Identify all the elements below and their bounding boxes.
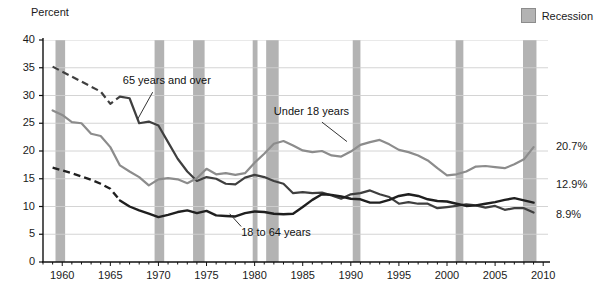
x-tick-label: 2010: [523, 269, 563, 281]
y-tick-label: 0: [13, 255, 35, 267]
x-tick-label: 1960: [42, 269, 82, 281]
x-tick-label: 1975: [187, 269, 227, 281]
y-tick-label: 15: [13, 172, 35, 184]
end-value-adults: 8.9%: [556, 208, 581, 220]
x-tick-label: 1990: [331, 269, 371, 281]
y-tick-label: 25: [13, 116, 35, 128]
x-tick-label: 1965: [90, 269, 130, 281]
y-tick-label: 20: [13, 144, 35, 156]
y-tick-label: 30: [13, 89, 35, 101]
y-axis-title: Percent: [31, 6, 69, 18]
x-tick-label: 2000: [427, 269, 467, 281]
y-tick-label: 40: [13, 33, 35, 45]
end-value-under18: 20.7%: [556, 140, 587, 152]
x-tick-label: 1980: [235, 269, 275, 281]
series-label-under18: Under 18 years: [274, 105, 349, 117]
y-tick-label: 10: [13, 200, 35, 212]
x-tick-label: 1985: [283, 269, 323, 281]
series-label-adults: 18 to 64 years: [241, 226, 311, 238]
x-tick-label: 2005: [475, 269, 515, 281]
legend-label-recession: Recession: [542, 10, 593, 22]
recession-swatch-icon: [521, 8, 536, 23]
end-value-over65: 12.9%: [556, 178, 587, 190]
y-tick-label: 5: [13, 227, 35, 239]
x-tick-label: 1995: [379, 269, 419, 281]
y-tick-label: 35: [13, 61, 35, 73]
x-tick-label: 1970: [138, 269, 178, 281]
chart-canvas: Percent Recession 0510152025303540 19601…: [0, 0, 601, 306]
series-label-over65: 65 years and over: [123, 74, 211, 86]
legend: Recession: [521, 8, 593, 23]
